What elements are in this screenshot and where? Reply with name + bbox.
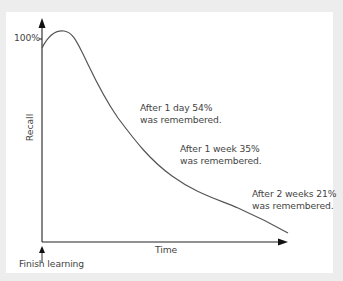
y-axis-arrow-icon — [39, 18, 46, 28]
annotation-1-day-line1: After 1 day 54% — [140, 102, 222, 114]
finish-learning-arrow-icon — [39, 246, 45, 253]
x-axis-arrow-icon — [278, 239, 288, 246]
annotation-1-week: After 1 week 35% was remembered. — [180, 143, 262, 167]
finish-learning-label: Finish learning — [19, 258, 84, 270]
y-axis-label: Recall — [24, 114, 35, 141]
annotation-1-day-line2: was remembered. — [140, 114, 222, 126]
x-axis-label: Time — [155, 244, 177, 256]
annotation-1-day: After 1 day 54% was remembered. — [140, 102, 222, 126]
forgetting-curve-chart — [0, 0, 343, 281]
annotation-1-week-line2: was remembered. — [180, 155, 262, 167]
annotation-1-week-line1: After 1 week 35% — [180, 143, 262, 155]
annotation-2-weeks-line1: After 2 weeks 21% — [252, 188, 336, 200]
annotation-2-weeks: After 2 weeks 21% was remembered. — [252, 188, 336, 212]
annotation-2-weeks-line2: was remembered. — [252, 200, 336, 212]
y-tick-label-100: 100% — [14, 32, 40, 44]
